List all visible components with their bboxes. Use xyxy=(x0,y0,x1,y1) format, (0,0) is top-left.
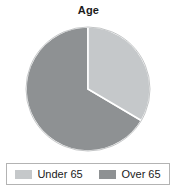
pie-chart-plot-area xyxy=(0,20,177,156)
legend-label-over-65: Over 65 xyxy=(121,168,160,180)
legend-swatch-over-65-icon xyxy=(99,170,116,179)
chart-legend: Under 65 Over 65 xyxy=(6,163,170,185)
legend-swatch-under-65-icon xyxy=(15,170,32,179)
legend-item-under-65[interactable]: Under 65 xyxy=(15,168,82,180)
legend-label-under-65: Under 65 xyxy=(37,168,82,180)
legend-item-over-65[interactable]: Over 65 xyxy=(99,168,160,180)
pie-chart-figure: Age Under 65 Over 65 xyxy=(0,0,177,192)
pie-chart-svg xyxy=(0,20,177,156)
chart-title: Age xyxy=(0,3,177,17)
